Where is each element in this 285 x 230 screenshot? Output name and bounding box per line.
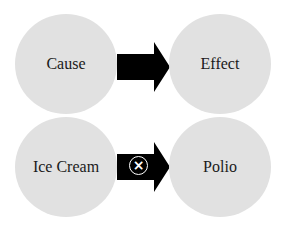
- circled-x-icon: ×: [129, 156, 148, 175]
- cause-label: Cause: [46, 55, 85, 73]
- ice-cream-node: Ice Cream: [15, 117, 117, 217]
- effect-label: Effect: [201, 55, 240, 73]
- ice-cream-label: Ice Cream: [33, 158, 99, 176]
- arrow-right-icon: [117, 42, 171, 92]
- cause-node: Cause: [15, 14, 117, 114]
- polio-label: Polio: [203, 158, 237, 176]
- causal-arrow: [117, 42, 171, 92]
- polio-node: Polio: [169, 117, 271, 217]
- effect-node: Effect: [169, 14, 271, 114]
